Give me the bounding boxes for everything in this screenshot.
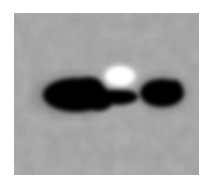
image-frame	[14, 13, 199, 175]
bright-spot	[98, 61, 142, 91]
micrograph-image	[14, 13, 199, 175]
